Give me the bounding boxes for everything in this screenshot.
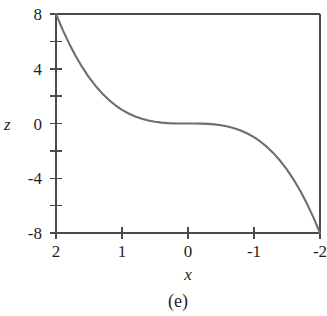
x-tick-label-0: 0 [173,243,203,260]
y-axis-label: z [4,116,11,133]
y-tick-label-8: 8 [16,6,42,23]
y-tick-label-minus-8: -8 [10,225,42,242]
panel-caption: (e) [148,292,208,310]
x-tick-label-1: 1 [107,243,137,260]
y-tick-label-4: 4 [16,61,42,78]
figure-container: 8 4 0 -4 -8 2 1 0 -1 -2 z x (e) [0,0,327,316]
plot-canvas [0,0,327,316]
x-tick-label-2: 2 [41,243,71,260]
x-axis-label: x [173,266,203,283]
x-tick-label-minus-2: -2 [303,243,327,260]
y-tick-label-0: 0 [16,116,42,133]
x-tick-label-minus-1: -1 [237,243,271,260]
y-tick-label-minus-4: -4 [10,170,42,187]
